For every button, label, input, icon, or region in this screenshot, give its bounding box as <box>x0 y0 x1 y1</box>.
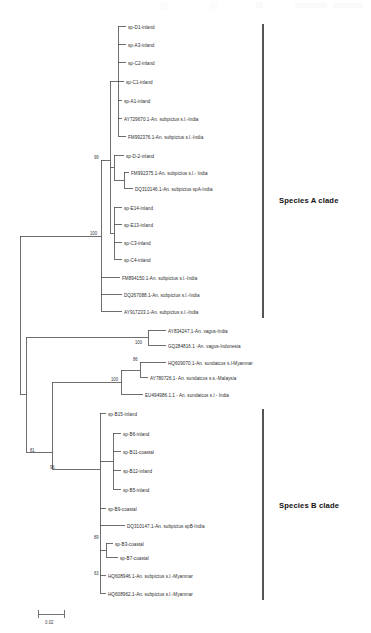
tree-tip-label: sp-A3-inland <box>128 41 154 48</box>
tree-tip-label: AY729670.1-An. subpictus s.l.-India <box>124 115 198 122</box>
tree-tip-label: sp-D-2-inland <box>126 152 154 159</box>
tree-tip-label: sp-B6-inland <box>123 430 149 437</box>
tree-tip-label: DQ310146.1-An. subpictus spA-India <box>135 185 213 192</box>
tree-tip-label: sp-B9-coastal <box>108 505 137 512</box>
bootstrap-value: 89 <box>94 535 99 541</box>
bootstrap-value: 81 <box>30 448 35 454</box>
tree-tip-label: FM992375.1-An. subpictus s.l.- India <box>131 169 208 176</box>
bootstrap-value: 86 <box>133 357 138 363</box>
tree-tip-label: GQ284816.1 -An. vagus-Indonesia <box>168 342 241 349</box>
tree-tip-label: sp-A1-inland <box>124 97 150 104</box>
clade-label-species-a: Species A clade <box>279 196 339 205</box>
bootstrap-value: 99 <box>94 155 99 161</box>
tree-tip-label: sp-B7-coastal <box>120 554 149 561</box>
phylogenetic-tree-figure: sp-D1-inland sp-A3-inland sp-C2-inland s… <box>0 0 371 633</box>
bootstrap-value: 100 <box>135 340 142 346</box>
tree-tip-label: sp-B3-coastal <box>115 540 144 547</box>
tree-tip-label: HQ608962.1-An. subpictus s.l.-Myanmar <box>108 590 193 597</box>
clade-label-species-b: Species B clade <box>279 501 339 510</box>
bootstrap-value: 100 <box>111 377 118 383</box>
tree-tip-label: sp-C1-inland <box>126 78 153 85</box>
bootstrap-value: 63 <box>94 571 99 577</box>
tree-tip-label: sp-C2-inland <box>128 59 155 66</box>
bootstrap-value: 100 <box>90 231 97 237</box>
tree-tip-label: sp-C3-inland <box>124 239 151 246</box>
tree-tip-label: sp-B11-coastal <box>123 448 154 455</box>
tree-tip-label: DQ310147.1-An. subpictus spB-India <box>127 522 205 529</box>
tree-tip-label: sp-B12-inland <box>123 467 152 474</box>
tree-tip-label: sp-E13-inland <box>124 221 153 228</box>
tree-tip-label: sp-B5-inland <box>123 486 149 493</box>
tree-tip-label: FM894150.1-An. subpictus s.l.-India <box>122 274 197 281</box>
tree-tip-label: DQ267088.1-An. subpictus s.l.-India <box>124 291 200 298</box>
tree-tip-label: FM992376.1-An. subpictus s.l.-India <box>128 133 203 140</box>
tree-tip-label: sp-E14-inland <box>124 204 153 211</box>
tree-tip-label: AY780726.1- An. sundaicus s.s.-Malaysia <box>150 374 236 381</box>
bootstrap-value: 96 <box>50 465 55 471</box>
scale-bar-label: 0.02 <box>45 619 54 626</box>
tree-tip-label: EU494986.1.1 - An. sundaicus s.l - India <box>145 391 229 398</box>
tree-tip-label: sp-D1-inland <box>128 23 155 30</box>
tree-tip-label: sp-B15-inland <box>108 410 137 417</box>
tree-tip-label: HQ609070.1-An. sundaicus s.l-Myanmar <box>168 359 253 366</box>
tree-tip-label: HQ608946.1-An. subpictus s.l.-Myanmar <box>108 572 193 579</box>
tree-branches <box>0 0 371 633</box>
tree-tip-label: AY834247.1-An. vagus-India <box>168 327 228 334</box>
tree-tip-label: AY917233.1-An. subpictus s.l.-India <box>124 308 198 315</box>
tree-tip-label: sp-C4-inland <box>124 256 151 263</box>
